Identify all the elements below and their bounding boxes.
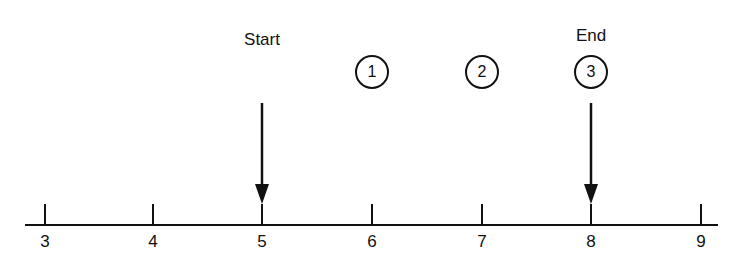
end-arrow-icon xyxy=(584,103,598,204)
tick-label: 9 xyxy=(696,232,705,252)
tick-label: 8 xyxy=(586,232,595,252)
tick-label: 7 xyxy=(477,232,486,252)
axis-ticks xyxy=(45,204,701,225)
tick-label: 3 xyxy=(40,232,49,252)
tick-label: 6 xyxy=(367,232,376,252)
step-number: 2 xyxy=(478,63,487,81)
end-label: End xyxy=(576,26,606,46)
step-number: 1 xyxy=(368,63,377,81)
step-circle-3: 3 xyxy=(574,55,608,89)
step-circle-1: 1 xyxy=(355,55,389,89)
tick-label: 5 xyxy=(257,232,266,252)
step-circle-2: 2 xyxy=(465,55,499,89)
tick-label: 4 xyxy=(148,232,157,252)
start-arrow-icon xyxy=(255,103,269,204)
start-label: Start xyxy=(244,30,280,50)
step-number: 3 xyxy=(587,63,596,81)
